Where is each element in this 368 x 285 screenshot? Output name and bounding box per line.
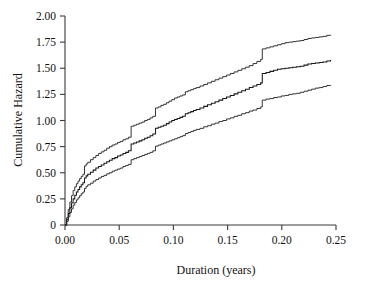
y-tick-label: 0.50 bbox=[36, 167, 56, 179]
plot-canvas: 00.250.500.751.001.251.501.752.00 0.000.… bbox=[0, 0, 368, 285]
x-tick-label: 0.05 bbox=[109, 234, 129, 246]
y-tick-label: 0.25 bbox=[36, 193, 56, 205]
y-tick-label: 0.75 bbox=[36, 141, 56, 153]
x-tick-label: 0.25 bbox=[326, 234, 346, 246]
y-tick-label: 1.75 bbox=[36, 36, 56, 48]
curve-estimate bbox=[65, 60, 331, 225]
curve-lower-ci bbox=[65, 85, 331, 225]
curve-upper-ci bbox=[65, 35, 331, 225]
x-tick-label: 0.20 bbox=[272, 234, 292, 246]
x-axis-ticks bbox=[65, 225, 336, 230]
y-tick-labels: 00.250.500.751.001.251.501.752.00 bbox=[36, 10, 56, 231]
cumulative-hazard-chart: 00.250.500.751.001.251.501.752.00 0.000.… bbox=[0, 0, 368, 285]
x-tick-label: 0.10 bbox=[163, 234, 183, 246]
x-tick-label: 0.15 bbox=[218, 234, 238, 246]
y-tick-label: 1.50 bbox=[36, 62, 56, 74]
y-tick-label: 1.00 bbox=[36, 115, 56, 127]
y-axis-title: Cumulative Hazard bbox=[11, 73, 25, 167]
x-tick-labels: 0.000.050.100.150.200.25 bbox=[55, 234, 346, 246]
x-axis-title: Duration (years) bbox=[177, 263, 256, 277]
hazard-curves bbox=[65, 35, 331, 225]
y-tick-label: 1.25 bbox=[36, 88, 56, 100]
x-tick-label: 0.00 bbox=[55, 234, 75, 246]
y-tick-label: 0 bbox=[50, 219, 56, 231]
y-tick-label: 2.00 bbox=[36, 10, 56, 22]
y-axis-ticks bbox=[60, 16, 65, 225]
